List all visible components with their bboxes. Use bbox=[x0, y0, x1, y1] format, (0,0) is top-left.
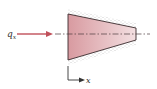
tapered-rod-diagram: qx x bbox=[0, 0, 157, 89]
x-axis-arrowhead-icon bbox=[79, 78, 85, 83]
diagram-svg: qx x bbox=[0, 0, 157, 89]
heat-flux-label: qx bbox=[7, 29, 17, 40]
x-axis-label: x bbox=[86, 76, 91, 85]
heat-flux-arrowhead-icon bbox=[46, 31, 53, 37]
x-axis-line bbox=[68, 66, 80, 80]
